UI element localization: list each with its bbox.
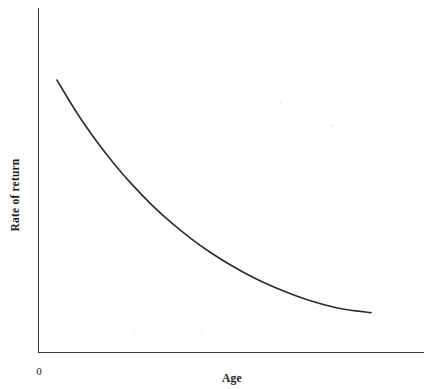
rate-of-return-curve [57, 80, 371, 313]
origin-label: 0 [36, 366, 42, 377]
x-axis-label: Age [222, 373, 242, 385]
plot-area [0, 0, 429, 389]
chart-figure: Rate of return Age 0 [0, 0, 429, 389]
y-axis-label: Rate of return [10, 159, 22, 232]
